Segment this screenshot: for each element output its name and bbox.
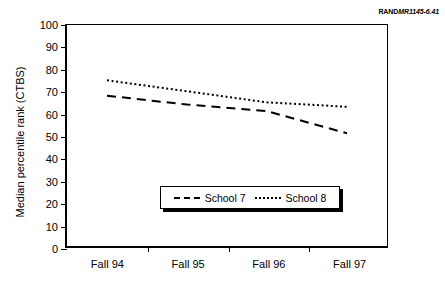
legend-box: School 7School 8 (160, 186, 340, 209)
legend-item: School 7 (174, 192, 246, 204)
legend-dotted-line-icon (255, 197, 281, 199)
x-tick (148, 246, 149, 252)
legend-dashed-line-icon (174, 197, 200, 199)
legend-item-label: School 8 (286, 192, 327, 204)
y-tick (61, 249, 67, 250)
x-tick (229, 246, 230, 252)
y-tick-label: 0 (52, 243, 58, 255)
y-tick-label: 40 (46, 153, 58, 165)
series-line (107, 96, 347, 134)
y-axis-title: Median percentile rank (CTBS) (14, 66, 26, 217)
x-tick-label: Fall 96 (252, 258, 285, 270)
x-tick-label: Fall 95 (172, 258, 205, 270)
y-tick-label: 60 (46, 109, 58, 121)
y-tick-label: 70 (46, 86, 58, 98)
y-tick-label: 80 (46, 64, 58, 76)
series-line (107, 80, 347, 107)
legend-item: School 8 (255, 192, 327, 204)
y-tick-label: 10 (46, 221, 58, 233)
x-tick-label: Fall 94 (91, 258, 124, 270)
figure-number: MR1145-6.41 (398, 8, 439, 15)
chart-legend: School 7School 8 (160, 186, 340, 209)
x-tick (309, 246, 310, 252)
x-tick-label: Fall 97 (333, 258, 366, 270)
y-tick-label: 50 (46, 131, 58, 143)
y-tick-label: 30 (46, 176, 58, 188)
figure-source-label: RANDMR1145-6.41 (378, 8, 439, 15)
rand-wordmark: RAND (378, 8, 398, 15)
y-tick-label: 90 (46, 41, 58, 53)
series-lines (67, 25, 387, 246)
y-tick-label: 100 (40, 19, 58, 31)
legend-item-label: School 7 (205, 192, 246, 204)
plot-area: 0102030405060708090100 Fall 94Fall 95Fal… (65, 24, 388, 248)
y-tick-label: 20 (46, 198, 58, 210)
